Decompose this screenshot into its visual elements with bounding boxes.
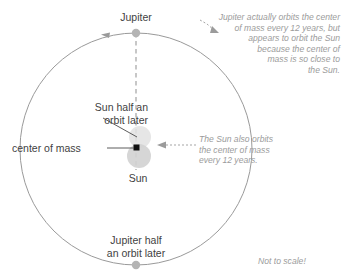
orbit-diagram: Jupiter Sun half an orbit later center o… (0, 0, 348, 276)
label-jupiter-half-orbit-later: Jupiter half an orbit later (86, 234, 186, 259)
label-sun: Sun (117, 172, 159, 185)
annotation-not-to-scale: Not to scale! (258, 256, 342, 267)
jupiter-dot (132, 29, 140, 37)
label-jupiter: Jupiter (106, 11, 166, 24)
center-of-mass-marker (134, 145, 140, 151)
label-sun-half-orbit-later: Sun half an orbit later (52, 101, 148, 126)
sun-note-pointer (157, 142, 196, 149)
annotation-jupiter-orbit: Jupiter actually orbits the center of ma… (206, 12, 340, 76)
label-center-of-mass: center of mass (12, 142, 116, 155)
jupiter-half-orbit-dot (132, 261, 140, 269)
annotation-sun-orbit: The Sun also orbits the center of mass e… (199, 134, 283, 166)
